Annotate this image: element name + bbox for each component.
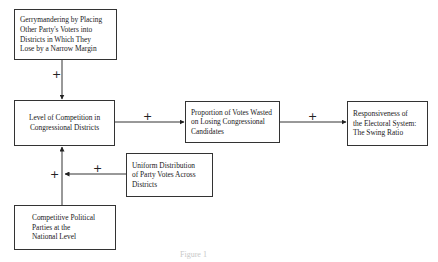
node-uniform-distribution: Uniform Distribution of Party Votes Acro… (126, 153, 213, 197)
node-competitive-parties: Competitive Political Parties at the Nat… (14, 205, 116, 250)
edge-sign-competition-wasted: + (143, 111, 152, 122)
node-responsiveness: Responsiveness of the Electoral System: … (347, 101, 428, 146)
node-label: Responsiveness of the Electoral System: … (353, 109, 416, 138)
edge-sign-uniform: + (93, 163, 102, 174)
edge-sign-gerrymandering: + (52, 69, 61, 80)
node-label: Competitive Political Parties at the Nat… (32, 213, 95, 242)
edge-sign-wasted-responsiveness: + (308, 111, 317, 122)
figure-caption: Figure 1 (180, 250, 207, 259)
node-competition: Level of Competition in Congressional Di… (14, 100, 115, 146)
node-wasted-votes: Proportion of Votes Wasted on Losing Con… (185, 101, 280, 143)
node-label: Gerrymandering by Placing Other Party's … (20, 15, 102, 53)
node-label: Uniform Distribution of Party Votes Acro… (132, 161, 196, 190)
edge-sign-competitive-parties: + (50, 169, 59, 180)
node-label: Level of Competition in Congressional Di… (29, 113, 100, 132)
node-label: Proportion of Votes Wasted on Losing Con… (191, 108, 272, 137)
node-gerrymandering: Gerrymandering by Placing Other Party's … (14, 9, 117, 60)
